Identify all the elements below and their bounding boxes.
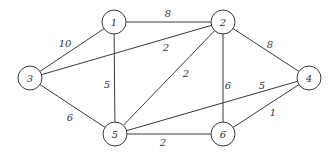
edge-weight-2-4: 8	[267, 39, 273, 50]
node-label: 5	[112, 129, 118, 140]
node-label: 6	[220, 129, 227, 140]
node-label: 2	[219, 17, 226, 28]
weight-label-layer: 810526268521	[59, 8, 277, 148]
edge-weight-2-6: 6	[225, 80, 232, 91]
node-label: 4	[305, 73, 312, 84]
edge-weight-3-2: 2	[162, 42, 169, 53]
edge-2-4	[223, 22, 309, 78]
edge-weight-1-3: 10	[59, 38, 72, 49]
node-1: 1	[102, 10, 126, 34]
edge-weight-6-4: 1	[270, 107, 276, 118]
node-2: 2	[211, 10, 235, 34]
edge-weight-5-6: 2	[159, 137, 166, 148]
node-label: 3	[27, 73, 33, 84]
edge-5-4	[115, 78, 309, 134]
weighted-graph-diagram: 810526268521 123456	[0, 0, 336, 155]
edge-weight-1-5: 5	[104, 79, 110, 90]
node-label: 1	[111, 17, 117, 28]
edge-1-5	[114, 22, 115, 134]
node-3: 3	[18, 66, 42, 90]
edge-weight-2-5: 2	[182, 68, 189, 79]
edge-6-4	[223, 78, 309, 134]
edge-weight-5-4: 5	[259, 80, 265, 91]
edge-1-3	[30, 22, 114, 78]
edge-3-2	[30, 22, 223, 78]
edge-weight-1-2: 8	[165, 8, 171, 19]
node-4: 4	[297, 66, 321, 90]
node-5: 5	[103, 122, 127, 146]
edge-3-5	[30, 78, 115, 134]
edge-2-5	[115, 22, 223, 134]
node-6: 6	[211, 122, 235, 146]
edge-weight-3-5: 6	[67, 112, 74, 123]
